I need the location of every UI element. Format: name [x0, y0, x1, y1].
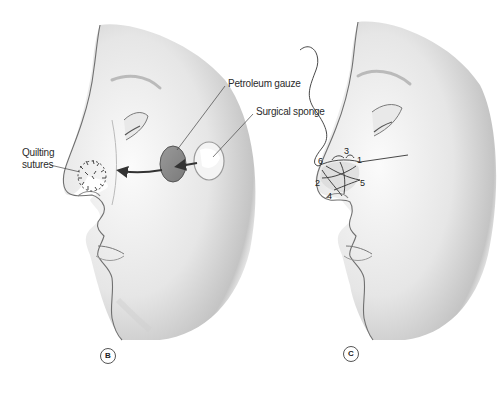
label-petroleum-gauze: Petroleum gauze — [228, 78, 301, 90]
label-quilting-line2: sutures — [22, 159, 53, 171]
panel-b-face — [63, 24, 255, 340]
suture-number-5: 5 — [360, 178, 365, 188]
petroleum-gauze-shape — [160, 146, 186, 182]
panel-badge-c: C — [343, 346, 359, 362]
suture-number-3: 3 — [344, 146, 349, 156]
suture-number-2: 2 — [315, 178, 320, 188]
panel-c-face — [316, 22, 497, 340]
medical-illustration: Quilting sutures Petroleum gauze Surgica… — [0, 0, 498, 411]
label-quilting-line1: Quilting — [22, 147, 54, 159]
surgical-sponge-shape — [194, 142, 224, 180]
label-surgical-sponge: Surgical sponge — [256, 106, 325, 118]
suture-number-4: 4 — [327, 191, 332, 201]
suture-number-6: 6 — [318, 156, 323, 166]
panel-badge-b: B — [100, 348, 116, 364]
suture-number-1: 1 — [357, 155, 362, 165]
illustration-canvas — [0, 0, 498, 411]
